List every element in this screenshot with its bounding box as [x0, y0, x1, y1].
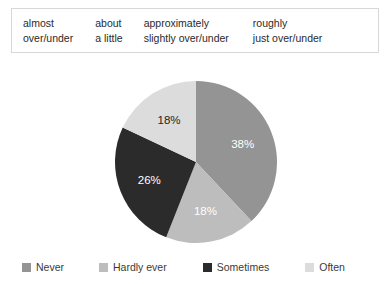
chart-legend: Never Hardly ever Sometimes Often	[0, 256, 391, 278]
phrase-line-2: just over/under	[253, 31, 322, 46]
legend-swatch-icon	[305, 263, 314, 272]
phrase-column-1: almost over/under	[23, 16, 73, 45]
phrase-line-1: approximately	[144, 16, 229, 31]
phrase-line-2: slightly over/under	[144, 31, 229, 46]
pie-slice-group	[115, 81, 277, 243]
phrase-column-4: roughly just over/under	[253, 16, 322, 45]
pie-chart-svg: 38%18%26%18%	[115, 81, 277, 243]
legend-item-never[interactable]: Never	[22, 261, 64, 273]
legend-label: Sometimes	[217, 261, 270, 273]
phrase-column-2: about a little	[95, 16, 122, 45]
phrase-line-1: about	[95, 16, 122, 31]
pie-slice-value-label: 38%	[231, 138, 254, 150]
legend-item-hardly-ever[interactable]: Hardly ever	[99, 261, 167, 273]
legend-swatch-icon	[203, 263, 212, 272]
phrase-reference-box: almost over/under about a little approxi…	[11, 8, 379, 53]
phrase-line-1: roughly	[253, 16, 322, 31]
legend-item-sometimes[interactable]: Sometimes	[203, 261, 270, 273]
legend-label: Often	[319, 261, 345, 273]
pie-chart: 38%18%26%18%	[115, 81, 277, 243]
phrase-line-2: a little	[95, 31, 122, 46]
phrase-line-2: over/under	[23, 31, 73, 46]
legend-label: Never	[36, 261, 64, 273]
legend-swatch-icon	[99, 263, 108, 272]
legend-swatch-icon	[22, 263, 31, 272]
phrase-column-3: approximately slightly over/under	[144, 16, 229, 45]
phrase-line-1: almost	[23, 16, 73, 31]
legend-item-often[interactable]: Often	[305, 261, 345, 273]
pie-slice-value-label: 26%	[138, 174, 161, 186]
pie-slice-value-label: 18%	[158, 114, 181, 126]
pie-slice-value-label: 18%	[194, 205, 217, 217]
legend-label: Hardly ever	[113, 261, 167, 273]
